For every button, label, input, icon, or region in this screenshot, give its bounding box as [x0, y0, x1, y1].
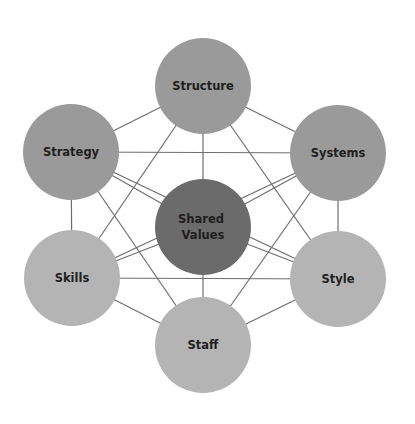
- node-label-skills: Skills: [55, 271, 90, 285]
- node-skills: Skills: [24, 230, 120, 326]
- node-label-staff: Staff: [188, 338, 220, 352]
- diagram-nodes: Structure Strategy Systems Shared Values: [23, 38, 386, 393]
- node-label-structure: Structure: [172, 79, 234, 93]
- node-staff: Staff: [155, 297, 251, 393]
- node-systems: Systems: [290, 105, 386, 201]
- seven-s-diagram: Structure Strategy Systems Shared Values: [0, 0, 415, 424]
- node-label-strategy: Strategy: [43, 145, 100, 159]
- node-label-style: Style: [321, 272, 354, 286]
- node-label-systems: Systems: [311, 146, 366, 160]
- node-structure: Structure: [155, 38, 251, 134]
- node-strategy: Strategy: [23, 104, 119, 200]
- node-circle-shared-values: [155, 179, 251, 275]
- node-shared-values: Shared Values: [155, 179, 251, 275]
- node-style: Style: [290, 231, 386, 327]
